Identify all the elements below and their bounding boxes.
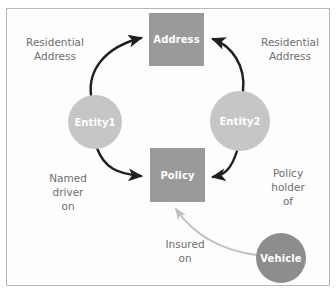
edge-label-entity2-policy: Policy holder of	[249, 166, 327, 209]
node-vehicle[interactable]: Vehicle	[256, 233, 306, 283]
node-policy[interactable]: Policy	[150, 148, 205, 202]
node-vehicle-label: Vehicle	[260, 253, 301, 264]
edge-entity2-policy	[213, 151, 237, 177]
node-entity1[interactable]: Entity1	[68, 95, 122, 149]
node-entity2[interactable]: Entity2	[210, 91, 270, 151]
node-entity1-label: Entity1	[74, 117, 115, 128]
node-entity2-label: Entity2	[219, 116, 260, 127]
node-address[interactable]: Address	[149, 13, 204, 66]
edge-label-vehicle-policy: Insured on	[148, 237, 222, 265]
node-address-label: Address	[153, 34, 199, 45]
edge-entity1-address	[91, 38, 141, 95]
edge-label-entity1-policy: Named driver on	[26, 171, 110, 214]
diagram-canvas: Address Policy Entity1 Entity2 Vehicle R…	[0, 0, 336, 297]
edge-label-entity2-address: Residential Address	[247, 35, 333, 63]
node-policy-label: Policy	[160, 170, 194, 181]
edge-label-entity1-address: Residential Address	[12, 35, 98, 63]
edge-entity2-address	[213, 39, 243, 91]
